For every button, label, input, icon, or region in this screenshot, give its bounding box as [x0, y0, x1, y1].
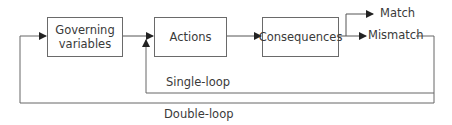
single-loop-label: Single-loop — [166, 75, 230, 89]
learning-loops-diagram: Governing variables Actions Consequences… — [0, 0, 452, 125]
double-loop-label: Double-loop — [164, 107, 233, 121]
actions-box: Actions — [154, 17, 227, 57]
actions-label: Actions — [169, 30, 211, 44]
mismatch-label: Mismatch — [368, 28, 423, 42]
consequences-label: Consequences — [259, 30, 343, 44]
governing-variables-box: Governing variables — [47, 17, 123, 57]
governing-label-line2: variables — [55, 37, 114, 51]
match-label: Match — [380, 6, 415, 20]
consequences-box: Consequences — [262, 17, 339, 57]
governing-label-line1: Governing — [55, 23, 114, 37]
